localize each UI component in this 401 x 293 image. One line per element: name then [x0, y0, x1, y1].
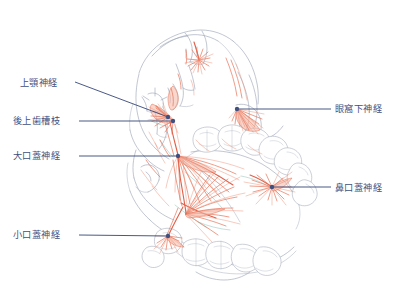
label-lesser-palatine-nerve: 小口蓋神経: [13, 229, 60, 240]
anatomical-diagram: 上顎神経 後上歯槽枝 大口蓋神経 小口蓋神経 眼窩下神経 鼻口蓋神経: [0, 0, 401, 293]
leader-maxillary-nerve: [75, 82, 168, 117]
label-greater-palatine-nerve: 大口蓋神経: [13, 150, 60, 161]
leader-dot-nasopalatine-nerve: [270, 185, 274, 189]
leader-dot-maxillary-nerve: [166, 115, 170, 119]
leader-dot-lesser-palatine-nerve: [166, 234, 170, 238]
lower-dental-arch: [142, 228, 281, 275]
leader-dot-greater-palatine-nerve: [176, 154, 180, 158]
leader-dot-posterior-superior-alveolar-branches: [171, 119, 175, 123]
label-maxillary-nerve: 上顎神経: [20, 77, 58, 88]
label-posterior-superior-alveolar-branches: 後上歯槽枝: [13, 115, 60, 126]
leader-lesser-palatine-nerve: [79, 235, 168, 236]
label-infraorbital-nerve: 眼窩下神経: [335, 103, 382, 114]
leader-dot-infraorbital-nerve: [235, 107, 239, 111]
label-nasopalatine-nerve: 鼻口蓋神経: [335, 182, 382, 193]
upper-dental-arch: [193, 125, 317, 206]
